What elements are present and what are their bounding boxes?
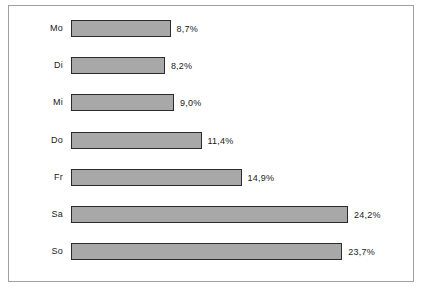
bar (71, 169, 242, 186)
bar-row: Fr14,9% (9, 169, 413, 186)
bar-category-label: Di (19, 57, 63, 74)
bar-row: Mi9,0% (9, 94, 413, 111)
bar-value-label: 24,2% (354, 206, 381, 223)
bar-chart-plot-area: Mo8,7%Di8,2%Mi9,0%Do11,4%Fr14,9%Sa24,2%S… (9, 6, 413, 281)
bar (71, 57, 165, 74)
bar-category-label: Fr (19, 169, 63, 186)
bar-row: Mo8,7% (9, 20, 413, 37)
bar (71, 206, 348, 223)
bar-category-label: So (19, 243, 63, 260)
bar-category-label: Mi (19, 94, 63, 111)
bar-category-label: Do (19, 132, 63, 149)
bar-row: Sa24,2% (9, 206, 413, 223)
bar (71, 132, 202, 149)
bar-category-label: Mo (19, 20, 63, 37)
bar-value-label: 9,0% (180, 94, 201, 111)
bar (71, 94, 174, 111)
bar-value-label: 23,7% (348, 243, 375, 260)
bar-row: Di8,2% (9, 57, 413, 74)
bar-value-label: 8,7% (177, 20, 198, 37)
bar-row: Do11,4% (9, 132, 413, 149)
bar-value-label: 11,4% (208, 132, 234, 149)
bar (71, 20, 171, 37)
bar (71, 243, 342, 260)
bar-value-label: 14,9% (248, 169, 275, 186)
bar-value-label: 8,2% (171, 57, 192, 74)
bar-row: So23,7% (9, 243, 413, 260)
bar-category-label: Sa (19, 206, 63, 223)
chart-frame: Mo8,7%Di8,2%Mi9,0%Do11,4%Fr14,9%Sa24,2%S… (8, 5, 414, 282)
